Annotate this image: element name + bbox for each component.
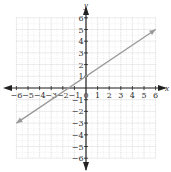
line-start-arrow-icon [16,118,22,124]
y-tick-label: −2 [72,107,84,116]
x-tick-label: 3 [118,91,123,100]
x-tick-label: −5 [22,91,34,100]
x-tick-label: −6 [11,91,23,100]
y-tick-label: −1 [72,96,84,105]
y-tick-label: −5 [72,143,84,152]
x-tick-label: 1 [95,91,100,100]
y-tick-label: 4 [78,37,83,46]
x-tick-label: 4 [130,91,135,100]
x-tick-label: 5 [141,91,146,100]
y-tick-label: 5 [78,26,83,35]
y-tick-label: −4 [72,131,84,140]
y-axis-down-arrow-icon [83,162,89,171]
coordinate-plane: −6−5−4−3−2−10123456−6−5−4−3−2−1123456 x … [0,0,171,172]
y-axis-label: y [83,0,88,10]
line-end-arrow-icon [149,30,155,36]
y-tick-label: 6 [78,14,83,23]
y-tick-label: 2 [78,61,83,70]
y-tick-label: 3 [78,49,83,58]
x-tick-label: 0 [83,91,88,100]
x-axis-label: x [164,83,169,93]
y-tick-label: −3 [72,119,84,128]
x-tick-label: −3 [45,91,57,100]
x-tick-label: −4 [34,91,46,100]
y-tick-label: −6 [72,154,84,163]
x-tick-label: 2 [107,91,112,100]
x-tick-label: 6 [153,91,158,100]
